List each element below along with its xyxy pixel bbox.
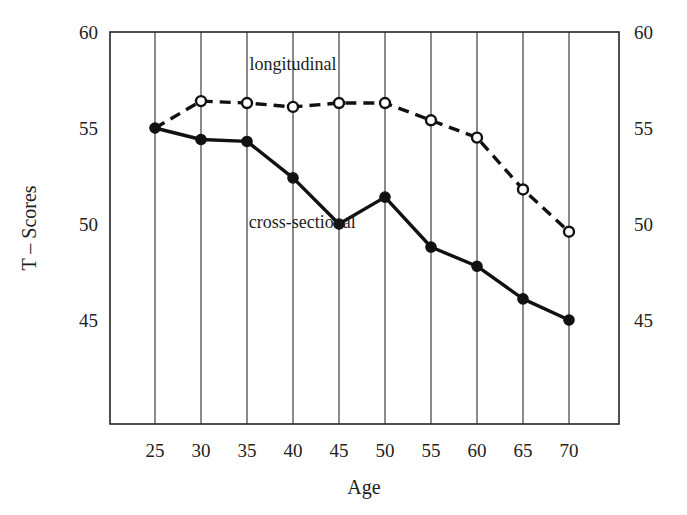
series-annotation-longitudinal: longitudinal — [250, 54, 337, 74]
datapoint-cross-sectional-age-35 — [242, 136, 252, 146]
datapoint-longitudinal-age-40 — [288, 102, 298, 112]
series-annotation-cross-sectional: cross-sectional — [249, 212, 356, 232]
x-tick-30: 30 — [192, 440, 211, 461]
y-tick-left-45: 45 — [79, 310, 98, 331]
x-tick-55: 55 — [422, 440, 441, 461]
datapoint-cross-sectional-age-40 — [288, 173, 298, 183]
y-axis-title: T – Scores — [18, 185, 40, 270]
datapoint-cross-sectional-age-60 — [472, 261, 482, 271]
y-tick-right-60: 60 — [634, 22, 653, 43]
x-axis-title: Age — [347, 476, 380, 499]
chart-figure: 45505560 45505560 25303540455055606570 l… — [0, 0, 687, 515]
t-scores-line-chart: 45505560 45505560 25303540455055606570 l… — [0, 0, 687, 515]
y-tick-right-50: 50 — [634, 214, 653, 235]
chart-background — [0, 0, 687, 515]
datapoint-cross-sectional-age-50 — [380, 192, 390, 202]
x-tick-25: 25 — [146, 440, 165, 461]
datapoint-longitudinal-age-50 — [380, 98, 390, 108]
x-tick-65: 65 — [514, 440, 533, 461]
x-tick-60: 60 — [468, 440, 487, 461]
y-tick-right-45: 45 — [634, 310, 653, 331]
datapoint-longitudinal-age-55 — [426, 115, 436, 125]
y-tick-right-55: 55 — [634, 118, 653, 139]
datapoint-cross-sectional-age-55 — [426, 242, 436, 252]
datapoint-longitudinal-age-30 — [196, 96, 206, 106]
y-tick-left-60: 60 — [79, 22, 98, 43]
datapoint-cross-sectional-age-30 — [196, 134, 206, 144]
y-tick-left-55: 55 — [79, 118, 98, 139]
datapoint-longitudinal-age-65 — [518, 184, 528, 194]
datapoint-longitudinal-age-35 — [242, 98, 252, 108]
x-tick-50: 50 — [376, 440, 395, 461]
x-tick-70: 70 — [560, 440, 579, 461]
x-tick-40: 40 — [284, 440, 303, 461]
x-tick-35: 35 — [238, 440, 257, 461]
datapoint-cross-sectional-age-25 — [150, 123, 160, 133]
x-tick-45: 45 — [330, 440, 349, 461]
datapoint-cross-sectional-age-70 — [564, 315, 574, 325]
datapoint-longitudinal-age-60 — [472, 133, 482, 143]
y-tick-left-50: 50 — [79, 214, 98, 235]
datapoint-cross-sectional-age-65 — [518, 294, 528, 304]
datapoint-longitudinal-age-70 — [564, 227, 574, 237]
datapoint-longitudinal-age-45 — [334, 98, 344, 108]
